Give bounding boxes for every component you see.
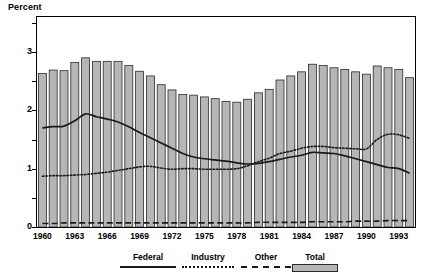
y-axis-ticks: 0123 — [4, 16, 32, 229]
legend-label: Total — [290, 252, 340, 263]
bar-total — [49, 70, 57, 227]
bar-total — [71, 63, 79, 228]
bar-total — [168, 90, 176, 227]
legend-swatch-industry — [182, 266, 234, 276]
plot-canvas — [37, 17, 415, 227]
x-tick-label: 1993 — [389, 231, 408, 241]
x-axis-ticks: 1960196319661969197219751978198119841987… — [36, 231, 416, 245]
bar-total — [190, 95, 198, 227]
bar-total — [125, 65, 133, 227]
x-tick-label: 1975 — [195, 231, 214, 241]
legend-item-industry[interactable]: Industry — [180, 252, 236, 276]
legend-label: Industry — [180, 252, 236, 263]
x-tick-label: 1984 — [292, 231, 311, 241]
x-tick-label: 1963 — [65, 231, 84, 241]
chart-figure: Percent 0123 196019631966196919721975197… — [0, 0, 422, 280]
bar-total — [395, 70, 403, 228]
legend-item-federal[interactable]: Federal — [118, 252, 178, 276]
x-tick-label: 1987 — [325, 231, 344, 241]
x-tick-label: 1972 — [163, 231, 182, 241]
bar-total — [157, 85, 165, 227]
legend-swatch-other — [241, 266, 291, 276]
y-axis-title: Percent — [8, 2, 42, 12]
x-tick-label: 1990 — [357, 231, 376, 241]
bar-total — [222, 102, 230, 227]
bar-total — [373, 66, 381, 227]
bar-total — [179, 95, 187, 227]
bar-total — [362, 74, 370, 227]
y-tick-label: 0 — [10, 221, 32, 231]
y-tick-label: 1 — [10, 163, 32, 173]
chart-legend: FederalIndustryOtherTotal — [118, 252, 318, 276]
legend-swatch-federal — [120, 266, 176, 276]
legend-item-total[interactable]: Total — [290, 252, 340, 272]
x-tick-label: 1960 — [33, 231, 52, 241]
bar-total — [211, 99, 219, 227]
bar-total — [92, 61, 100, 227]
bar-total — [233, 102, 241, 227]
bar-total — [406, 78, 414, 227]
x-tick-label: 1966 — [98, 231, 117, 241]
bar-total — [82, 58, 90, 227]
x-tick-label: 1978 — [227, 231, 246, 241]
legend-swatch-total — [292, 264, 338, 272]
y-tick-label: 3 — [10, 46, 32, 56]
bar-total — [114, 61, 122, 227]
x-tick-label: 1969 — [130, 231, 149, 241]
x-tick-label: 1981 — [260, 231, 279, 241]
y-tick-label: 2 — [10, 104, 32, 114]
bar-total — [136, 71, 144, 227]
legend-item-other[interactable]: Other — [240, 252, 292, 276]
bar-total — [38, 74, 46, 227]
bar-total — [146, 76, 154, 227]
legend-label: Other — [240, 252, 292, 263]
plot-area — [36, 16, 416, 228]
bar-total — [384, 68, 392, 227]
bar-total — [60, 71, 68, 227]
legend-label: Federal — [118, 252, 178, 263]
bar-total — [103, 61, 111, 227]
bar-total — [200, 97, 208, 227]
